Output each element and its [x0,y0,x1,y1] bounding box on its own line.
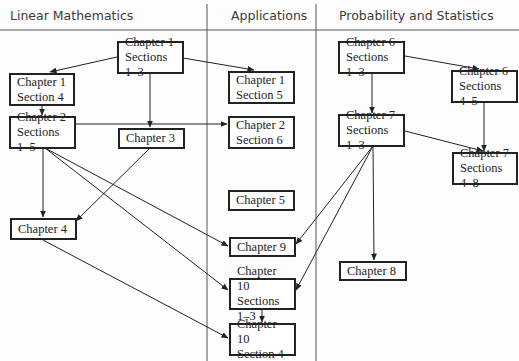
node-title: Chapter 6 [346,35,397,50]
node-sections: Sections 1–3 [125,50,176,80]
edge-ch1s13-ch1s4 [50,57,117,72]
node-title: Chapter 5 [236,193,287,208]
node-title: Chapter 3 [126,131,177,146]
node-title: Chapter 2 [17,110,68,125]
edge-ch1s13-ch1s5 [183,58,254,70]
node-sections: Section 5 [236,88,287,103]
node-chapter9: Chapter 9 [229,237,296,257]
node-title: Chapter 10 [237,264,288,294]
node-title: Chapter 4 [18,222,69,237]
node-title: Chapter 7 [346,108,397,123]
node-title: Chapter 8 [347,264,399,279]
node-title: Chapter 1 [236,73,287,88]
node-sections: Section 4 [17,90,67,105]
node-chapter10-section4: Chapter 10 Section 4 [229,323,296,356]
node-sections: Sections 1–3 [346,50,397,80]
prerequisite-diagram: Linear Mathematics Applications Probabil… [0,0,519,361]
node-title: Chapter 1 [125,35,176,50]
node-chapter1-sections1-3: Chapter 1 Sections 1–3 [117,41,184,74]
node-chapter7-sections4-8: Chapter 7 Sections 4–8 [452,152,518,185]
node-chapter2-section6: Chapter 2 Section 6 [228,116,295,149]
node-title: Chapter 10 [237,317,288,347]
node-chapter4: Chapter 4 [10,218,77,240]
node-sections: Sections 4–8 [460,161,510,191]
edge-ch7s13-ch8 [373,146,374,260]
edge-ch4-ch10s4 [43,240,228,338]
node-chapter6-sections1-3: Chapter 6 Sections 1–3 [338,41,405,74]
node-chapter10-sections1-3: Chapter 10 Sections 1–3 [229,278,296,310]
node-title: Chapter 2 [236,118,287,133]
node-chapter8: Chapter 8 [339,261,407,281]
edge-ch3-ch4 [76,148,150,221]
node-title: Chapter 6 [459,64,510,79]
node-chapter6-sections4-5: Chapter 6 Sections 4–5 [451,70,518,103]
node-chapter3: Chapter 3 [118,128,185,149]
node-chapter5: Chapter 5 [228,190,295,211]
node-sections: Sections 1–5 [17,125,68,155]
node-chapter7-sections1-3: Chapter 7 Sections 1–3 [338,114,405,147]
node-chapter1-section4: Chapter 1 Section 4 [9,73,75,106]
node-chapter2-sections1-5: Chapter 2 Sections 1–5 [9,116,76,149]
node-title: Chapter 1 [17,75,67,90]
node-chapter1-section5: Chapter 1 Section 5 [228,71,295,104]
node-sections: Section 6 [236,133,287,148]
node-title: Chapter 9 [237,240,288,255]
node-sections: Section 4 [237,347,288,361]
node-sections: Sections 4–5 [459,79,510,109]
edge-ch7s13-ch9 [296,146,373,244]
node-sections: Sections 1–3 [346,123,397,153]
node-title: Chapter 7 [460,146,510,161]
